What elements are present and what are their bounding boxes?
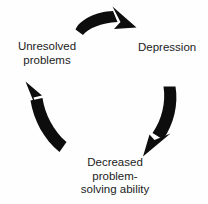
- curved-arrow-top: [76, 7, 137, 36]
- curved-arrow-left: [26, 82, 67, 153]
- node-label-unresolved-problems: Unresolved problems: [4, 40, 90, 67]
- curved-arrow-right: [143, 87, 176, 157]
- diagram-canvas: Unresolved problems Depression Decreased…: [0, 0, 208, 204]
- node-label-depression: Depression: [138, 41, 196, 55]
- node-label-decreased-problem-solving-ability: Decreased problem- solving ability: [62, 156, 168, 197]
